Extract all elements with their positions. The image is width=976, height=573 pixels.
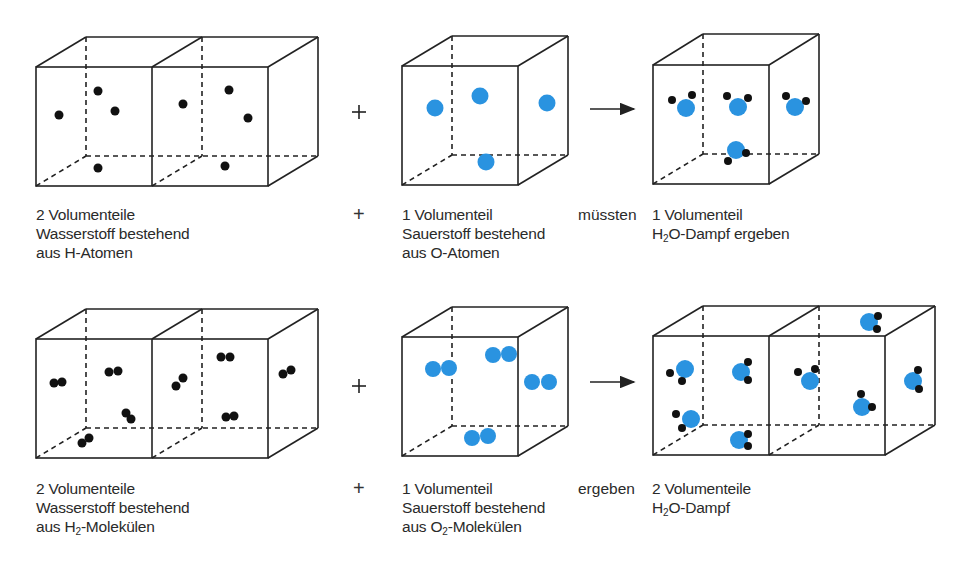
water-vapor-double-cube xyxy=(653,306,935,455)
label-line: aus O2-Molekülen xyxy=(402,517,545,536)
label-line: aus O-Atomen xyxy=(402,243,545,262)
label-line: Wasserstoff bestehend xyxy=(36,498,189,517)
plus-sign-label: + xyxy=(353,204,365,224)
hydrogen-molecules-label: 2 Volumenteile Wasserstoff bestehend aus… xyxy=(36,479,189,536)
plus-sign xyxy=(352,105,366,119)
plus-sign-label: + xyxy=(353,478,365,498)
label-line: H2O-Dampf xyxy=(652,498,751,517)
water-vapor-label: 1 Volumenteil H2O-Dampf ergeben xyxy=(652,205,789,243)
label-line: 2 Volumenteile xyxy=(652,479,751,498)
label-line: 1 Volumenteil xyxy=(402,479,545,498)
oxygen-atoms-label: 1 Volumenteil Sauerstoff bestehend aus O… xyxy=(402,205,545,262)
label-line: 1 Volumenteil xyxy=(652,205,789,224)
label-line: aus H-Atomen xyxy=(36,243,189,262)
formula-part: O-Dampf xyxy=(668,499,729,516)
label-line: 2 Volumenteile xyxy=(36,205,189,224)
plus-sign xyxy=(352,379,366,393)
formula-part: aus O xyxy=(402,518,442,535)
formula-part: H xyxy=(652,225,663,242)
hydrogen-atoms xyxy=(55,86,253,173)
formula-part: -Molekülen xyxy=(81,518,155,535)
hydrogen-atoms-label: 2 Volumenteile Wasserstoff bestehend aus… xyxy=(36,205,189,262)
label-line: Wasserstoff bestehend xyxy=(36,224,189,243)
formula-part: aus H xyxy=(36,518,76,535)
hydrogen-atoms-double-cube xyxy=(36,37,318,186)
label-line: Sauerstoff bestehend xyxy=(402,224,545,243)
oxygen-atoms xyxy=(427,88,556,171)
formula-part: O-Dampf ergeben xyxy=(668,225,789,242)
oxygen-molecules-label: 1 Volumenteil Sauerstoff bestehend aus O… xyxy=(402,479,545,536)
label-line: H2O-Dampf ergeben xyxy=(652,224,789,243)
label-line: Sauerstoff bestehend xyxy=(402,498,545,517)
formula-part: -Molekülen xyxy=(448,518,522,535)
formula-part: H xyxy=(652,499,663,516)
label-line: 2 Volumenteile xyxy=(36,479,189,498)
label-line: aus H2-Molekülen xyxy=(36,517,189,536)
connector-word: ergeben xyxy=(578,479,635,498)
label-line: 1 Volumenteil xyxy=(402,205,545,224)
water-vapor-label-2: 2 Volumenteile H2O-Dampf xyxy=(652,479,751,517)
connector-word: müssten xyxy=(578,205,637,224)
